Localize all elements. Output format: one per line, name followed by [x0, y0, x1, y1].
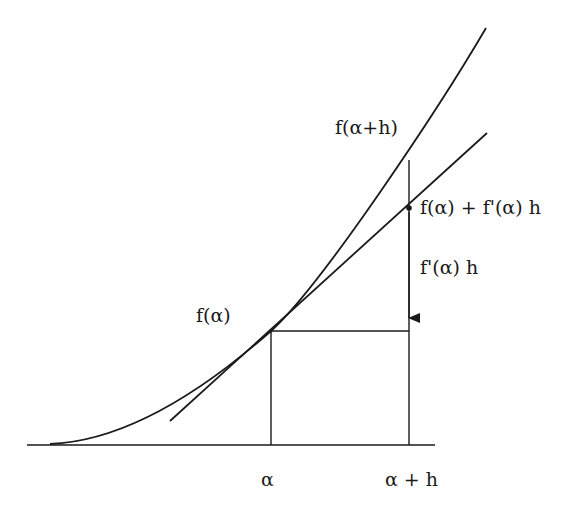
diagram-canvas — [0, 0, 587, 512]
label-tangent-value: f(α) + f'(α) h — [420, 198, 541, 217]
label-increment: f'(α) h — [420, 258, 478, 277]
tangent-point — [269, 329, 272, 332]
function-curve — [50, 28, 486, 444]
tangent-intersection-point — [406, 205, 412, 211]
label-f-alpha: f(α) — [196, 306, 231, 325]
tangent-approximation-diagram: f(α+h) f(α) + f'(α) h f'(α) h f(α) α α +… — [0, 0, 587, 512]
label-x-alpha-plus-h: α + h — [385, 470, 438, 489]
label-x-alpha: α — [261, 470, 274, 489]
label-f-alpha-plus-h: f(α+h) — [335, 118, 398, 137]
